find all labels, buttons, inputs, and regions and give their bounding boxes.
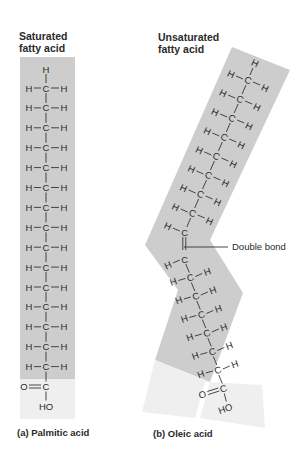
carbon-atom: C xyxy=(43,282,50,293)
hydrogen-atom: H xyxy=(61,142,68,153)
hydrogen-atom: H xyxy=(26,301,33,312)
hydrogen-atom: H xyxy=(26,262,33,273)
hydrogen-atom: H xyxy=(26,361,33,372)
carbon-atom: C xyxy=(43,341,50,352)
carbon-atom: C xyxy=(43,381,50,392)
hydrogen-atom: H xyxy=(61,262,68,273)
hydrogen-atom: H xyxy=(61,202,68,213)
carbon-atom: C xyxy=(43,262,50,273)
hydroxyl-group: HO xyxy=(39,401,53,412)
carbon-atom: C xyxy=(43,202,50,213)
hydrogen-atom: H xyxy=(230,358,240,371)
hydrogen-atom: H xyxy=(26,282,33,293)
fatty-acid-diagram: HHCHHCHHCHHCHHCHHCHHCHHCHHCHHCHHCHHCHHCH… xyxy=(0,0,304,458)
carbon-atom: C xyxy=(213,364,223,377)
hydrogen-atom: H xyxy=(61,321,68,332)
unsaturated-caption: (b) Oleic acid xyxy=(153,428,213,439)
carbon-atom: C xyxy=(43,321,50,332)
hydrogen-atom: H xyxy=(61,122,68,133)
carbon-atom: C xyxy=(43,162,50,173)
hydrogen-atom: H xyxy=(26,142,33,153)
double-bond-label: Double bond xyxy=(232,241,286,252)
carbon-atom: C xyxy=(43,102,50,113)
unsaturated-chain-band xyxy=(145,47,290,382)
hydrogen-atom: H xyxy=(61,242,68,253)
hydrogen-atom: H xyxy=(26,222,33,233)
hydrogen-atom: H xyxy=(61,282,68,293)
hydrogen-atom: H xyxy=(61,83,68,94)
hydrogen-atom: H xyxy=(61,102,68,113)
carbon-atom: C xyxy=(181,254,188,265)
hydrogen-atom: H xyxy=(61,301,68,312)
bond-line xyxy=(223,366,230,369)
hydrogen-atom: H xyxy=(61,341,68,352)
hydrogen-atom: H xyxy=(26,321,33,332)
hydrogen-atom: H xyxy=(26,102,33,113)
hydrogen-atom: H xyxy=(26,202,33,213)
carbon-atom: C xyxy=(43,83,50,94)
carbon-atom: C xyxy=(181,227,188,238)
hydrogen-atom: H xyxy=(26,182,33,193)
hydrogen-atom: H xyxy=(61,182,68,193)
hydrogen-atom: H xyxy=(26,242,33,253)
carbon-atom: C xyxy=(43,122,50,133)
carbon-atom: C xyxy=(43,242,50,253)
carbon-atom: C xyxy=(43,361,50,372)
hydrogen-atom: H xyxy=(26,341,33,352)
hydrogen-atom: H xyxy=(43,64,50,75)
saturated-caption: (a) Palmitic acid xyxy=(17,427,89,438)
hydrogen-atom: H xyxy=(26,83,33,94)
oxygen-atom: O xyxy=(20,381,27,392)
hydrogen-atom: H xyxy=(61,361,68,372)
carbon-atom: C xyxy=(43,222,50,233)
hydrogen-atom: H xyxy=(26,162,33,173)
hydrogen-atom: H xyxy=(26,122,33,133)
hydrogen-atom: H xyxy=(61,222,68,233)
hydrogen-atom: H xyxy=(224,339,234,352)
carbon-atom: C xyxy=(43,142,50,153)
hydrogen-atom: H xyxy=(61,162,68,173)
carbon-atom: C xyxy=(43,182,50,193)
carbon-atom: C xyxy=(43,301,50,312)
